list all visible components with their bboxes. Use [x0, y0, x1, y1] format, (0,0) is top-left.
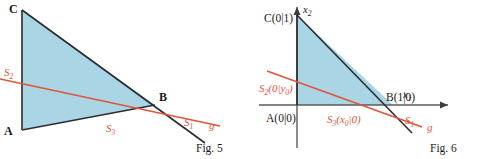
line-label-g: g	[427, 121, 433, 133]
axis-label-x2: x2	[302, 4, 312, 18]
vertex-label-c: C(0|1)	[264, 12, 293, 25]
triangle-abc-fill	[22, 10, 155, 130]
point-label-s3: S3	[106, 122, 116, 137]
vertex-label-b: B	[159, 90, 167, 104]
figure-5-caption: Fig. 5	[196, 142, 223, 155]
vertex-label-b: B(1|0)	[386, 91, 415, 104]
figure-6-caption: Fig. 6	[430, 142, 457, 155]
line-label-g: g	[209, 119, 215, 131]
point-label-s2: S2(0|y0)	[259, 82, 293, 97]
figure-5: C A B S2 S3 S1 g Fig. 5	[0, 0, 239, 159]
axis-x1-arrowhead	[440, 102, 448, 109]
triangle-abc-fill	[297, 15, 393, 105]
point-label-s3: S3(x0|0)	[327, 113, 361, 128]
vertex-label-c: C	[9, 2, 18, 16]
vertex-label-a: A	[4, 124, 13, 138]
vertex-label-a: A(0|0)	[266, 112, 296, 125]
figures-panel: C A B S2 S3 S1 g Fig. 5 x1	[0, 0, 478, 159]
point-label-s2: S2	[4, 66, 14, 81]
figure-6: x1 x2 C(0|1) A(0|0) B(1|0) S2(0|y0) S3(x…	[239, 0, 478, 159]
axis-x2-arrowhead	[294, 7, 301, 15]
